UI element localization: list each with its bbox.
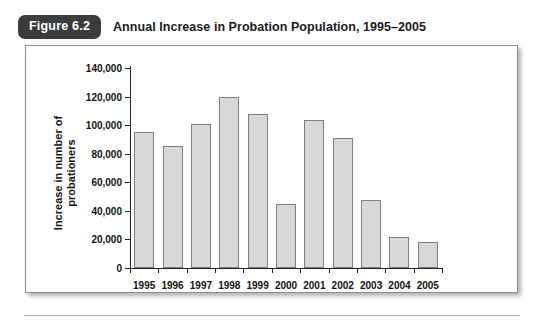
x-axis-tick-mark bbox=[243, 268, 244, 273]
x-axis-tick-mark bbox=[130, 268, 131, 273]
y-axis-tick-label: 80,000 bbox=[91, 148, 122, 159]
x-axis-tick-mark bbox=[414, 268, 415, 273]
x-axis-tick-label: 2005 bbox=[417, 280, 439, 291]
bar bbox=[191, 124, 211, 268]
x-axis-tick-label: 1997 bbox=[190, 280, 212, 291]
y-axis-title-text: Increase in number of probationers bbox=[52, 116, 78, 230]
x-axis-tick-mark bbox=[158, 268, 159, 273]
x-axis-tick-label: 2002 bbox=[332, 280, 354, 291]
x-axis-tick-mark bbox=[442, 268, 443, 273]
x-axis-tick-mark bbox=[187, 268, 188, 273]
figure-title: Annual Increase in Probation Population,… bbox=[113, 20, 426, 34]
bar bbox=[418, 242, 438, 268]
x-axis-tick-label: 1998 bbox=[218, 280, 240, 291]
x-axis-tick-mark bbox=[300, 268, 301, 273]
figure-number-badge: Figure 6.2 bbox=[18, 15, 101, 39]
y-axis-tick-mark bbox=[125, 211, 130, 212]
x-axis-line bbox=[130, 268, 443, 269]
x-axis-tick-label: 2000 bbox=[275, 280, 297, 291]
bar bbox=[361, 200, 381, 268]
x-axis-tick-mark bbox=[385, 268, 386, 273]
y-axis-tick-label: 20,000 bbox=[91, 234, 122, 245]
y-axis-tick-label: 120,000 bbox=[86, 91, 122, 102]
x-axis-tick-label: 2003 bbox=[360, 280, 382, 291]
y-axis-tick-label: 60,000 bbox=[91, 177, 122, 188]
bar bbox=[304, 120, 324, 268]
plot-area: 020,00040,00060,00080,000100,000120,0001… bbox=[130, 68, 442, 268]
x-axis-tick-label: 1999 bbox=[247, 280, 269, 291]
y-axis-title: Increase in number of probationers bbox=[52, 98, 78, 248]
x-axis-tick-mark bbox=[329, 268, 330, 273]
x-axis-tick-label: 1995 bbox=[133, 280, 155, 291]
y-axis-tick-mark bbox=[125, 97, 130, 98]
y-axis-tick-mark bbox=[125, 154, 130, 155]
x-axis-tick-mark bbox=[215, 268, 216, 273]
bar bbox=[389, 237, 409, 268]
bar bbox=[333, 138, 353, 268]
x-axis-tick-label: 2001 bbox=[303, 280, 325, 291]
x-axis-tick-mark bbox=[357, 268, 358, 273]
y-axis-title-line-2: probationers bbox=[65, 139, 77, 206]
y-axis-tick-label: 140,000 bbox=[86, 63, 122, 74]
figure-header: Figure 6.2 Annual Increase in Probation … bbox=[18, 14, 523, 40]
y-axis-tick-label: 40,000 bbox=[91, 205, 122, 216]
y-axis-tick-mark bbox=[125, 239, 130, 240]
bar bbox=[219, 97, 239, 268]
bar bbox=[276, 204, 296, 268]
y-axis-tick-label: 100,000 bbox=[86, 120, 122, 131]
bar bbox=[248, 114, 268, 268]
y-axis-tick-mark bbox=[125, 182, 130, 183]
y-axis-tick-mark bbox=[125, 125, 130, 126]
figure-container: Figure 6.2 Annual Increase in Probation … bbox=[0, 0, 543, 330]
y-axis-title-line-1: Increase in number of bbox=[52, 116, 64, 230]
bar bbox=[134, 132, 154, 268]
y-axis-tick-label: 0 bbox=[116, 263, 122, 274]
y-axis-tick-mark bbox=[125, 68, 130, 69]
bar bbox=[163, 146, 183, 268]
x-axis-tick-label: 1996 bbox=[161, 280, 183, 291]
bottom-divider bbox=[24, 315, 520, 316]
x-axis-tick-label: 2004 bbox=[388, 280, 410, 291]
x-axis-tick-mark bbox=[272, 268, 273, 273]
